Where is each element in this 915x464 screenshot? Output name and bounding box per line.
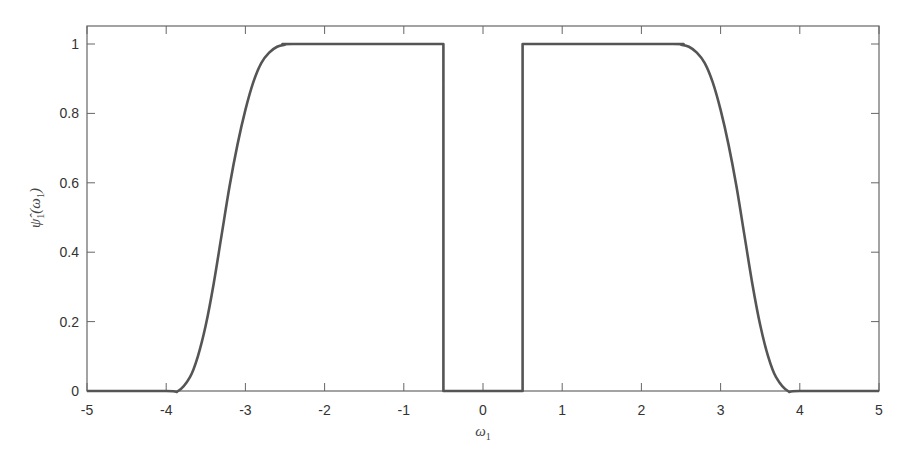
plot-box — [87, 26, 879, 391]
x-tick-label: 1 — [558, 402, 566, 418]
x-axis-label: ω1 — [475, 423, 491, 442]
y-tick-label: 1 — [71, 36, 79, 52]
x-tick-label: 5 — [875, 402, 883, 418]
y-tick-label: 0.8 — [60, 105, 80, 121]
x-tick-label: 2 — [638, 402, 646, 418]
x-tick-label: -4 — [160, 402, 173, 418]
y-axis-label: ψ̂1(ω1) — [27, 188, 46, 228]
x-tick-label: -5 — [81, 402, 94, 418]
y-axis-ticks: 00.20.40.60.81 — [60, 36, 879, 399]
y-tick-label: 0.2 — [60, 314, 80, 330]
x-tick-label: -2 — [318, 402, 331, 418]
x-tick-label: -1 — [398, 402, 411, 418]
y-tick-label: 0.6 — [60, 175, 80, 191]
chart: -5-4-3-2-1012345 00.20.40.60.81 ω1 ψ̂1(ω… — [0, 0, 915, 464]
series-line — [87, 44, 879, 392]
x-tick-label: 3 — [717, 402, 725, 418]
data-series — [87, 44, 879, 392]
x-tick-label: -3 — [239, 402, 252, 418]
plot-frame — [87, 26, 879, 391]
y-tick-label: 0 — [71, 383, 79, 399]
x-tick-label: 4 — [796, 402, 804, 418]
x-tick-label: 0 — [479, 402, 487, 418]
y-tick-label: 0.4 — [60, 244, 80, 260]
x-axis-ticks: -5-4-3-2-1012345 — [81, 26, 883, 418]
